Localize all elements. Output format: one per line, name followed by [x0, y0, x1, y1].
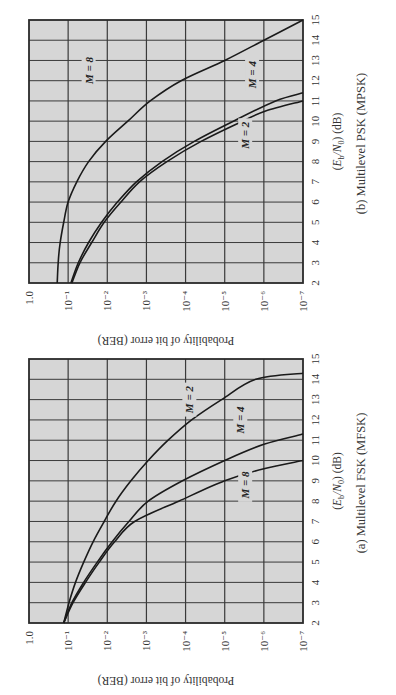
x-tick-label: 11 — [309, 96, 321, 107]
x-tick-label: 4 — [309, 579, 321, 585]
x-tick-label: 5 — [309, 559, 321, 565]
x-tick-label: 2 — [309, 620, 321, 626]
y-tick-label: 10⁻⁶ — [258, 291, 270, 312]
y-tick-label: 10⁻⁵ — [219, 291, 231, 312]
mpsk-chart: M = 8M = 4M = 21.010⁻¹10⁻²10⁻³10⁻⁴10⁻⁵10… — [23, 14, 368, 347]
x-tick-label: 10 — [309, 455, 321, 467]
y-tick-label: 10⁻³ — [140, 290, 152, 311]
y-tick-label: 10⁻¹ — [62, 291, 74, 311]
x-tick-label: 9 — [309, 478, 321, 484]
y-tick-label: 10⁻² — [101, 630, 113, 651]
x-tick-label: 9 — [309, 138, 321, 144]
y-tick-label: 1.0 — [23, 631, 35, 645]
x-tick-label: 8 — [309, 158, 321, 164]
x-tick-label: 10 — [309, 115, 321, 127]
x-tick-label: 7 — [309, 518, 321, 524]
curve-label: M = 2 — [239, 121, 251, 150]
x-axis-label: (Eb/N0) (dB) — [331, 113, 346, 171]
x-tick-label: 12 — [309, 414, 321, 425]
plot-area — [29, 359, 303, 623]
y-tick-label: 10⁻⁴ — [180, 291, 192, 312]
x-tick-label: 6 — [309, 539, 321, 545]
ber-figure: M = 2M = 4M = 81.010⁻¹10⁻²10⁻³10⁻⁴10⁻⁵10… — [0, 0, 396, 695]
mfsk-chart: M = 2M = 4M = 81.010⁻¹10⁻²10⁻³10⁻⁴10⁻⁵10… — [23, 353, 368, 687]
x-tick-label: 3 — [309, 260, 321, 266]
x-tick-label: 6 — [309, 199, 321, 205]
y-tick-label: 10⁻¹ — [62, 631, 74, 651]
x-tick-label: 3 — [309, 599, 321, 605]
x-tick-label: 4 — [309, 239, 321, 245]
x-tick-label: 5 — [309, 219, 321, 225]
y-tick-label: 10⁻⁶ — [258, 631, 270, 652]
x-tick-label: 8 — [309, 498, 321, 504]
curve-label: M = 2 — [183, 386, 195, 415]
x-tick-label: 15 — [309, 353, 321, 365]
x-tick-label: 14 — [309, 373, 321, 385]
curve-label: M = 4 — [246, 61, 258, 90]
x-axis-label: (Eb/N0) (dB) — [331, 452, 346, 510]
chart-caption: (b) Multilevel PSK (MPSK) — [354, 73, 368, 214]
plot-area — [29, 20, 303, 283]
chart-caption: (a) Multilevel FSK (MFSK) — [354, 413, 368, 554]
curve-label: M = 4 — [234, 406, 246, 435]
y-axis-label: Probability of bit error (BER) — [97, 334, 234, 347]
y-tick-label: 10⁻⁷ — [297, 631, 309, 652]
y-tick-label: 10⁻² — [101, 290, 113, 311]
y-tick-label: 10⁻⁴ — [180, 631, 192, 652]
x-tick-label: 12 — [309, 75, 321, 86]
y-tick-label: 10⁻³ — [140, 630, 152, 651]
y-tick-label: 10⁻⁵ — [219, 631, 231, 652]
y-axis-label: Probability of bit error (BER) — [97, 674, 234, 687]
x-tick-label: 13 — [309, 54, 321, 66]
curve-label: M = 8 — [239, 471, 251, 500]
x-tick-label: 7 — [309, 179, 321, 185]
x-tick-label: 15 — [309, 14, 321, 26]
x-tick-label: 2 — [309, 280, 321, 286]
y-tick-label: 1.0 — [23, 291, 35, 305]
x-tick-label: 14 — [309, 34, 321, 46]
curve-label: M = 8 — [83, 57, 95, 86]
y-tick-label: 10⁻⁷ — [297, 291, 309, 312]
x-tick-label: 13 — [309, 394, 321, 406]
x-tick-label: 11 — [309, 435, 321, 446]
